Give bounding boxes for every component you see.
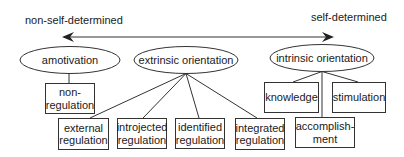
integrated-regulation-line1: integrated: [236, 122, 285, 135]
non-regulation-line2: regulation: [46, 99, 94, 112]
self-determined-label: self-determined: [311, 11, 387, 23]
integrated-regulation-line2: regulation: [236, 134, 285, 147]
integrated-regulation-box: integrated regulation: [235, 118, 285, 150]
identified-regulation-line1: identified: [176, 121, 224, 134]
non-self-determined-label: non-self-determined: [25, 14, 123, 26]
external-regulation-line1: external: [59, 122, 107, 135]
intrinsic-orientation-label: intrinsic orientation: [276, 52, 368, 64]
stimulation-label: stimulation: [333, 91, 386, 104]
accomplishment-line2: ment: [296, 133, 355, 146]
external-regulation-box: external regulation: [58, 118, 109, 150]
introjected-regulation-line2: regulation: [117, 134, 168, 147]
knowledge-label: knowledge: [265, 91, 318, 104]
non-regulation-line1: non-: [46, 86, 94, 99]
connector-extrinsic-fan: [90, 74, 257, 119]
non-regulation-box: non- regulation: [45, 83, 95, 114]
introjected-regulation-box: introjected regulation: [117, 118, 167, 149]
introjected-regulation-line1: introjected: [117, 121, 168, 134]
self-determination-axis-arrow: [62, 32, 334, 42]
amotivation-label: amotivation: [42, 54, 98, 66]
extrinsic-orientation-label: extrinsic orientation: [139, 54, 234, 66]
external-regulation-line2: regulation: [59, 134, 107, 147]
identified-regulation-line2: regulation: [176, 134, 224, 147]
identified-regulation-box: identified regulation: [175, 118, 225, 149]
accomplishment-line1: accomplish-: [296, 120, 355, 133]
stimulation-box: stimulation: [332, 82, 386, 113]
accomplishment-box: accomplish- ment: [295, 117, 355, 148]
knowledge-box: knowledge: [264, 82, 319, 113]
